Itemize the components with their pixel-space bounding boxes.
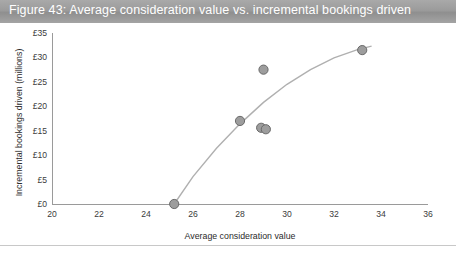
y-tick-label: £15 [33, 126, 48, 136]
y-tick-label: £30 [33, 52, 48, 62]
y-tick-label: £25 [33, 77, 48, 87]
data-point [261, 125, 270, 134]
y-tick-label: £0 [37, 199, 47, 209]
data-points-group [170, 46, 367, 209]
y-tick-label: £10 [33, 150, 48, 160]
x-tick-label: 24 [141, 209, 151, 219]
x-tick-label: 32 [329, 209, 339, 219]
data-point [259, 65, 268, 74]
bottom-divider [0, 245, 456, 246]
x-axis-title: Average consideration value [185, 231, 296, 241]
trend-curve [174, 46, 371, 204]
y-tick-label: £5 [37, 175, 47, 185]
page-title: Figure 43: Average consideration value v… [9, 3, 411, 17]
x-tick-label: 30 [282, 209, 292, 219]
x-tick-label: 34 [376, 209, 386, 219]
x-tick-label: 28 [235, 209, 245, 219]
y-tick-labels: £0 £5 £10 £15 £20 £25 £30 £35 [33, 28, 48, 209]
x-tick-label: 26 [188, 209, 198, 219]
data-point [170, 199, 179, 208]
x-tick-label: 20 [47, 209, 57, 219]
data-point [235, 116, 244, 125]
x-tick-label: 36 [423, 209, 433, 219]
plot-svg: £0 £5 £10 £15 £20 £25 £30 £35 20 22 24 2… [0, 23, 456, 254]
figure-title-bar: Figure 43: Average consideration value v… [0, 0, 456, 23]
y-tick-label: £35 [33, 28, 48, 38]
data-point [358, 46, 367, 55]
x-tick-labels: 20 22 24 26 28 30 32 34 36 [47, 209, 433, 219]
scatter-chart: Incremental bookings driven (millions) £… [0, 23, 456, 254]
x-tick-label: 22 [94, 209, 104, 219]
y-tick-label: £20 [33, 101, 48, 111]
